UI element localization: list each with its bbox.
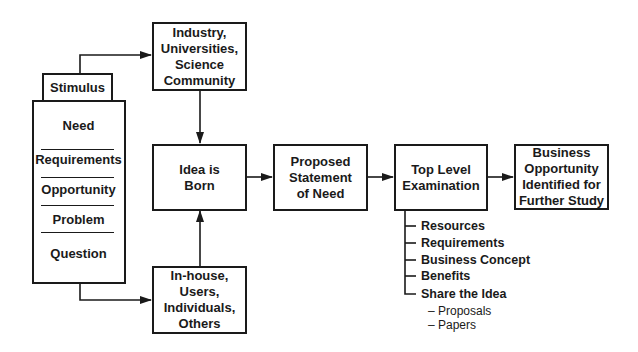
stimulus-header-label: Stimulus <box>50 80 105 96</box>
idea-born-box: Idea is Born <box>152 144 247 211</box>
stimulus-item-question: Question <box>32 246 125 262</box>
arrow-stimulus-to-external <box>80 55 151 73</box>
top-level-exam-label: Top Level Examination <box>402 162 479 194</box>
exam-item-share-idea: Share the Idea <box>421 287 506 302</box>
stimulus-item-need: Need <box>32 118 125 134</box>
exam-item-resources: Resources <box>421 219 485 234</box>
stimulus-divider <box>41 149 114 150</box>
top-level-exam-box: Top Level Examination <box>394 144 488 211</box>
exam-item-business-concept: Business Concept <box>421 253 530 268</box>
external-sources-box: Industry, Universities, Science Communit… <box>152 22 247 91</box>
share-sub-papers: – Papers <box>428 318 476 332</box>
exam-item-benefits: Benefits <box>421 269 470 284</box>
stimulus-header-box: Stimulus <box>42 73 113 102</box>
internal-sources-label: In-house, Users, Individuals, Others <box>164 268 236 332</box>
idea-born-label: Idea is Born <box>179 162 219 194</box>
stimulus-divider <box>41 232 114 233</box>
proposed-statement-box: Proposed Statement of Need <box>273 144 368 211</box>
stimulus-item-problem: Problem <box>32 212 125 228</box>
stimulus-item-opportunity: Opportunity <box>32 182 125 198</box>
proposed-statement-label: Proposed Statement of Need <box>289 154 352 202</box>
business-opportunity-box: Business Opportunity Identified for Furt… <box>514 144 609 210</box>
arrow-stimulus-to-internal <box>80 283 151 300</box>
internal-sources-box: In-house, Users, Individuals, Others <box>152 266 247 334</box>
exam-item-requirements: Requirements <box>421 236 504 251</box>
stimulus-item-requirements: Requirements <box>32 152 125 168</box>
external-sources-label: Industry, Universities, Science Communit… <box>161 25 238 89</box>
business-opportunity-label: Business Opportunity Identified for Furt… <box>519 145 604 209</box>
stimulus-divider <box>41 205 114 206</box>
stimulus-divider <box>41 177 114 178</box>
share-sub-proposals: – Proposals <box>428 304 491 318</box>
tree-spine <box>405 210 416 294</box>
